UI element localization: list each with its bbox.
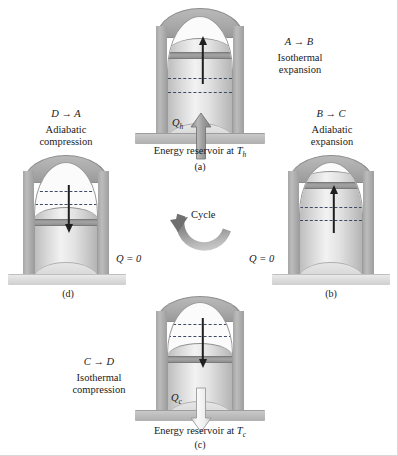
panel-b-process-line1: Adiabatic <box>290 124 374 136</box>
panel-a-transition-label: A → B <box>264 36 334 48</box>
panel-b-id: (b) <box>311 288 351 299</box>
panel-b-insulating-stand <box>272 274 390 285</box>
panel-b-process-line2: expansion <box>290 136 374 148</box>
panel-b-process-label: Adiabatic expansion <box>290 124 374 149</box>
panel-d-process-label: Adiabatic compression <box>22 124 110 149</box>
panel-c-transition-label: C → D <box>64 356 134 368</box>
panel-b-apparatus <box>283 155 379 283</box>
heat-subscript: c <box>179 397 182 406</box>
panel-d-heat-zero-label: Q = 0 <box>116 253 141 264</box>
panel-b-transition-label: B → C <box>296 108 366 120</box>
figure-canvas: Qh A → B Isothermal expansion Energy res… <box>0 0 397 455</box>
cylinder-wall-right <box>233 26 244 136</box>
panel-d-process-line1: Adiabatic <box>22 124 110 136</box>
cylinder-wall-left <box>156 26 167 136</box>
panel-a-process-label: Isothermal expansion <box>258 52 342 77</box>
heat-symbol: Q <box>172 117 180 128</box>
cylinder-wall-left <box>288 171 299 275</box>
panel-c-piston-arrow-down <box>198 318 208 368</box>
panel-b-piston-arrow-up <box>329 185 339 233</box>
panel-a-reservoir-label: Energy reservoir at Th <box>120 145 280 159</box>
panel-d-id: (d) <box>48 288 88 299</box>
cycle-label: Cycle <box>191 209 216 220</box>
panel-d-insulating-stand <box>8 274 126 285</box>
heat-symbol: Q <box>171 392 179 403</box>
panel-c-process-label: Isothermal compression <box>55 372 143 397</box>
panel-c-process-line2: compression <box>55 384 143 396</box>
panel-a-piston-arrow-up <box>198 36 208 84</box>
panel-c-heat-label: Qc <box>171 392 182 406</box>
cylinder-wall-right <box>98 171 109 275</box>
cylinder-wall-right <box>363 171 374 275</box>
panel-c-id: (c) <box>180 439 220 450</box>
panel-d-transition-label: D → A <box>31 108 101 120</box>
panel-c-process-line1: Isothermal <box>55 372 143 384</box>
panel-a-heat-label: Qh <box>172 117 183 131</box>
panel-a-id: (a) <box>180 161 220 172</box>
panel-d-apparatus <box>18 155 114 283</box>
panel-a-process-line1: Isothermal <box>258 52 342 64</box>
heat-subscript: h <box>180 122 184 131</box>
panel-d-piston-arrow-down <box>64 185 74 233</box>
cylinder-wall-right <box>233 311 244 414</box>
cylinder-wall-left <box>23 171 34 275</box>
panel-b-heat-zero-label: Q = 0 <box>249 253 274 264</box>
panel-c-reservoir-label: Energy reservoir at Tc <box>120 425 280 439</box>
cylinder-wall-left <box>156 311 167 414</box>
piston-marker-lower <box>168 92 232 93</box>
panel-a-process-line2: expansion <box>258 64 342 76</box>
panel-d-process-line2: compression <box>22 136 110 148</box>
